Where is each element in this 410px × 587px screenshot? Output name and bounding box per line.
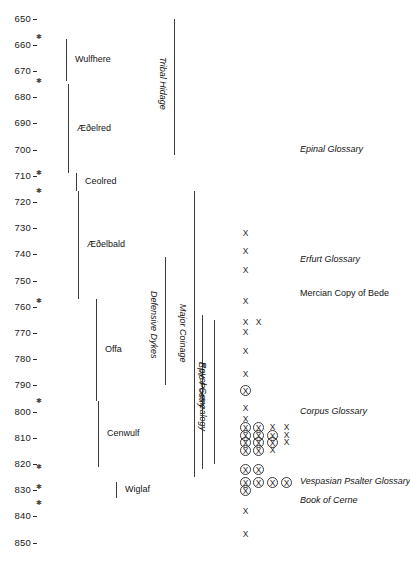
reign-label-0: Wulfhere <box>75 54 111 64</box>
year-tick-790: 790 <box>3 379 31 390</box>
year-tick-710: 710 <box>3 170 31 181</box>
theme-bar-0 <box>174 19 175 155</box>
manuscript-mark-circled: X <box>240 485 251 496</box>
tick-mark <box>33 516 37 517</box>
theme-label-0: Tribal Hidage <box>158 57 168 110</box>
year-tick-690: 690 <box>3 117 31 128</box>
manuscript-mark: X <box>240 346 251 357</box>
year-tick-810: 810 <box>3 432 31 443</box>
tick-mark <box>33 281 37 282</box>
year-tick-820: 820 <box>3 458 31 469</box>
manuscript-mark: X <box>240 327 251 338</box>
manuscript-label-4: Vespasian Psalter Glossary <box>300 476 410 486</box>
star-marker-829: ✱ <box>35 484 42 489</box>
manuscript-label-1: Erfurt Glossary <box>300 254 360 264</box>
manuscript-mark-circled: X <box>253 477 264 488</box>
manuscript-mark: X <box>240 317 251 328</box>
manuscript-mark: X <box>240 529 251 540</box>
reign-label-3: Æðelbald <box>87 239 125 249</box>
year-tick-840: 840 <box>3 510 31 521</box>
tick-mark <box>33 543 37 544</box>
reign-bar-0 <box>66 39 67 81</box>
year-tick-700: 700 <box>3 144 31 155</box>
reign-bar-2 <box>76 173 77 191</box>
tick-mark <box>33 307 37 308</box>
reign-bar-1 <box>68 84 69 173</box>
manuscript-mark: X <box>267 445 278 456</box>
tick-mark <box>33 228 37 229</box>
tick-mark <box>33 385 37 386</box>
star-marker-821: ✱ <box>35 464 42 469</box>
tick-mark <box>33 333 37 334</box>
manuscript-label-5: Book of Cerne <box>300 495 358 505</box>
theme-label-1: Major Coinage <box>178 304 188 363</box>
manuscript-mark: X <box>240 296 251 307</box>
manuscript-mark: X <box>253 317 264 328</box>
year-tick-750: 750 <box>3 275 31 286</box>
manuscript-mark: X <box>240 369 251 380</box>
manuscript-mark: X <box>240 246 251 257</box>
tick-mark <box>33 202 37 203</box>
star-marker-758: ✱ <box>35 298 42 303</box>
year-tick-660: 660 <box>3 39 31 50</box>
year-tick-800: 800 <box>3 406 31 417</box>
manuscript-mark: X <box>240 265 251 276</box>
tick-mark <box>33 254 37 255</box>
manuscript-mark-circled: X <box>281 477 292 488</box>
manuscript-mark: X <box>281 437 292 448</box>
year-tick-730: 730 <box>3 222 31 233</box>
manuscript-label-2: Mercian Copy of Bede <box>300 288 389 298</box>
tick-mark <box>33 412 37 413</box>
star-marker-674: ✱ <box>35 78 42 83</box>
theme-label-2: Defensive Dykes <box>149 291 159 359</box>
year-tick-780: 780 <box>3 353 31 364</box>
reign-label-5: Cenwulf <box>107 428 140 438</box>
reign-bar-3 <box>78 191 79 298</box>
reign-label-2: Ceolred <box>85 176 117 186</box>
manuscript-mark-circled: X <box>240 445 251 456</box>
year-tick-830: 830 <box>3 484 31 495</box>
manuscript-mark-circled: X <box>240 464 251 475</box>
manuscript-label-0: Epinal Glossary <box>300 144 363 154</box>
manuscript-label-3: Corpus Glossary <box>300 406 367 416</box>
tick-mark <box>33 490 37 491</box>
manuscript-mark: X <box>240 228 251 239</box>
timeline-chart: 6506606706806907007107207307407507607707… <box>0 0 410 587</box>
reign-label-1: Æðelred <box>77 123 111 133</box>
tick-mark <box>33 123 37 124</box>
year-tick-740: 740 <box>3 248 31 259</box>
tick-mark <box>33 45 37 46</box>
tick-mark <box>33 71 37 72</box>
manuscript-mark: X <box>240 403 251 414</box>
manuscript-mark-circled: X <box>253 445 264 456</box>
theme-bar-3 <box>214 320 215 464</box>
reign-label-4: Offa <box>105 344 122 354</box>
tick-mark <box>33 438 37 439</box>
star-marker-716: ✱ <box>35 188 42 193</box>
manuscript-mark: X <box>240 506 251 517</box>
year-tick-760: 760 <box>3 301 31 312</box>
star-marker-835: ✱ <box>35 500 42 505</box>
tick-mark <box>33 19 37 20</box>
reign-bar-6 <box>116 482 117 498</box>
tick-mark <box>33 150 37 151</box>
tick-mark <box>33 359 37 360</box>
year-tick-650: 650 <box>3 13 31 24</box>
manuscript-mark-circled: X <box>253 464 264 475</box>
manuscript-mark-circled: X <box>240 385 251 396</box>
reign-bar-5 <box>98 401 99 467</box>
reign-bar-4 <box>96 299 97 401</box>
year-tick-850: 850 <box>3 537 31 548</box>
star-marker-709: ✱ <box>35 170 42 175</box>
year-tick-770: 770 <box>3 327 31 338</box>
tick-mark <box>33 97 37 98</box>
theme-label-4: Epic Poetry <box>197 362 207 408</box>
theme-bar-2 <box>165 257 166 385</box>
year-tick-720: 720 <box>3 196 31 207</box>
manuscript-mark-circled: X <box>267 477 278 488</box>
year-tick-680: 680 <box>3 91 31 102</box>
theme-bar-1 <box>194 191 195 477</box>
year-tick-670: 670 <box>3 65 31 76</box>
star-marker-796: ✱ <box>35 398 42 403</box>
reign-label-6: Wiglaf <box>125 484 150 494</box>
